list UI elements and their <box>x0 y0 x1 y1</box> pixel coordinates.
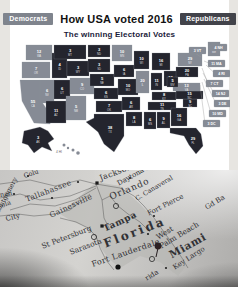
state-ND: 3ND <box>88 45 110 57</box>
florida-paper-map: ColuMontgomerynancolaTallahasseeCityGain… <box>0 170 238 287</box>
svg-text:VA: VA <box>185 88 189 92</box>
svg-text:29: 29 <box>188 56 193 61</box>
state-HI: 4 HI <box>56 144 80 155</box>
svg-text:10 MD: 10 MD <box>212 112 223 116</box>
state-KS: 6KS <box>94 88 118 99</box>
state-MO: 10MO <box>118 79 138 95</box>
svg-text:3 VT: 3 VT <box>194 49 202 53</box>
svg-text:AZ: AZ <box>54 113 58 117</box>
svg-text:GA: GA <box>177 118 181 122</box>
svg-text:AL: AL <box>162 121 166 125</box>
state-OK: 7OK <box>96 101 122 112</box>
state-MT: 3MT <box>54 45 86 59</box>
svg-text:11 MA: 11 MA <box>211 62 222 66</box>
us-electoral-map: 12WA7OR55CA6NV4ID3MT3WY6UT11AZ9CO5NM3ND3… <box>10 41 230 165</box>
page: Democrats How USA voted 2016 Republicans… <box>0 0 238 287</box>
state-PA: 20PA <box>176 67 198 77</box>
svg-text:SD: SD <box>97 67 101 71</box>
svg-text:20: 20 <box>185 68 190 73</box>
state-NY: 29NY <box>178 53 202 66</box>
svg-text:29: 29 <box>191 136 196 141</box>
republicans-badge: Republicans <box>180 13 236 25</box>
svg-text:7 CT: 7 CT <box>211 82 220 86</box>
svg-text:WA: WA <box>37 54 41 58</box>
svg-text:38: 38 <box>108 125 113 130</box>
svg-text:20: 20 <box>140 78 145 83</box>
svg-text:3 DC: 3 DC <box>207 122 216 126</box>
svg-text:4 NH: 4 NH <box>214 46 223 50</box>
city-square-marker <box>95 181 98 184</box>
state-AL: 9AL <box>157 112 170 128</box>
svg-text:WI: WI <box>140 61 144 65</box>
svg-text:CA: CA <box>31 104 35 108</box>
state-WI: 10WI <box>134 51 149 69</box>
svg-text:PA: PA <box>185 73 189 77</box>
state-NE: 5NE <box>90 74 114 86</box>
state-MI: 16MI <box>152 53 170 70</box>
state-AK: 3AK <box>22 127 54 153</box>
svg-text:UT: UT <box>60 91 64 95</box>
svg-text:KS: KS <box>104 95 108 99</box>
map-label-nan: nan <box>0 190 13 199</box>
state-KY: 8KY <box>152 92 176 101</box>
svg-text:CO: CO <box>80 87 84 91</box>
svg-text:NC: NC <box>188 96 192 100</box>
svg-text:4 RI: 4 RI <box>218 72 225 76</box>
state-AR: 6AR <box>122 97 140 110</box>
svg-text:TX: TX <box>108 130 112 134</box>
svg-text:13: 13 <box>184 83 189 88</box>
svg-text:AK: AK <box>36 140 40 144</box>
svg-text:OR: OR <box>34 71 38 75</box>
state-NM: 5NM <box>66 96 86 120</box>
democrats-badge: Democrats <box>3 13 53 25</box>
state-WA: 12WA <box>26 45 52 60</box>
svg-text:MN: MN <box>120 54 124 58</box>
electoral-infographic-panel: Democrats How USA voted 2016 Republicans… <box>10 0 229 170</box>
svg-text:16: 16 <box>177 113 182 118</box>
svg-text:14 NJ: 14 NJ <box>216 92 226 96</box>
state-LA: 8LA <box>126 112 142 126</box>
town-dot-marker <box>13 193 15 195</box>
svg-text:55: 55 <box>31 99 36 104</box>
svg-text:ID: ID <box>58 67 61 71</box>
svg-text:LA: LA <box>132 120 135 124</box>
state-AZ: 11AZ <box>46 101 66 123</box>
state-FL: 29FL <box>170 128 203 154</box>
svg-text:AR: AR <box>129 105 133 109</box>
svg-text:WY: WY <box>76 70 81 74</box>
svg-text:KY: KY <box>162 97 166 101</box>
state-MN: 10MN <box>112 45 132 61</box>
svg-text:NE: NE <box>100 81 104 85</box>
svg-text:OK: OK <box>107 108 111 112</box>
svg-text:16: 16 <box>159 58 164 63</box>
town-dot-marker <box>165 267 167 269</box>
subtitle: The winning Electoral Votes <box>10 30 229 39</box>
state-MS: 6MS <box>144 112 156 129</box>
svg-text:ND: ND <box>97 52 101 56</box>
svg-text:IA: IA <box>123 72 126 76</box>
state-TX: 38TX <box>86 114 124 152</box>
state-NH: 4 NH <box>210 44 227 51</box>
state-IN: 11IN <box>151 73 162 90</box>
header: Democrats How USA voted 2016 Republicans <box>10 0 229 25</box>
svg-text:MO: MO <box>126 88 130 92</box>
svg-text:10: 10 <box>120 49 125 54</box>
svg-text:FL: FL <box>191 141 195 145</box>
state-NC: 15NC <box>176 91 203 100</box>
state-IL: 20IL <box>136 71 149 93</box>
state-SC: 9SC <box>183 99 197 108</box>
town-dot-marker <box>51 197 53 199</box>
page-title: How USA voted 2016 <box>60 13 173 25</box>
svg-text:MS: MS <box>148 122 152 126</box>
svg-text:MI: MI <box>160 63 163 67</box>
svg-text:SC: SC <box>188 104 192 108</box>
svg-text:10: 10 <box>139 56 144 61</box>
svg-text:IN: IN <box>155 83 158 87</box>
svg-text:MT: MT <box>68 53 72 57</box>
state-WV: 5WV <box>167 77 178 87</box>
svg-text:WV: WV <box>170 83 175 87</box>
state-WY: 3WY <box>67 61 89 76</box>
town-dot-marker <box>77 181 79 183</box>
svg-text:4 HI: 4 HI <box>56 150 62 154</box>
svg-text:TN: TN <box>160 107 164 111</box>
